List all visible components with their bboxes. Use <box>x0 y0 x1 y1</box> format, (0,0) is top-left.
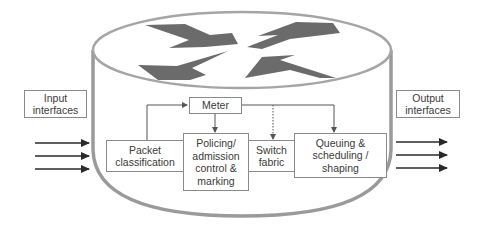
input-interfaces-box: Input interfaces <box>24 90 87 118</box>
queuing-scheduling-box: Queuing & scheduling / shaping <box>294 133 387 178</box>
input-arrows <box>35 143 89 169</box>
output-interfaces-box: Output interfaces <box>396 90 460 118</box>
switch-fabric-box: Switch fabric <box>248 140 295 172</box>
packet-classification-box: Packet classification <box>106 140 184 172</box>
policing-admission-box: Policing/ admission control & marking <box>183 133 249 191</box>
meter-box: Meter <box>189 97 242 114</box>
output-arrows <box>396 142 447 168</box>
